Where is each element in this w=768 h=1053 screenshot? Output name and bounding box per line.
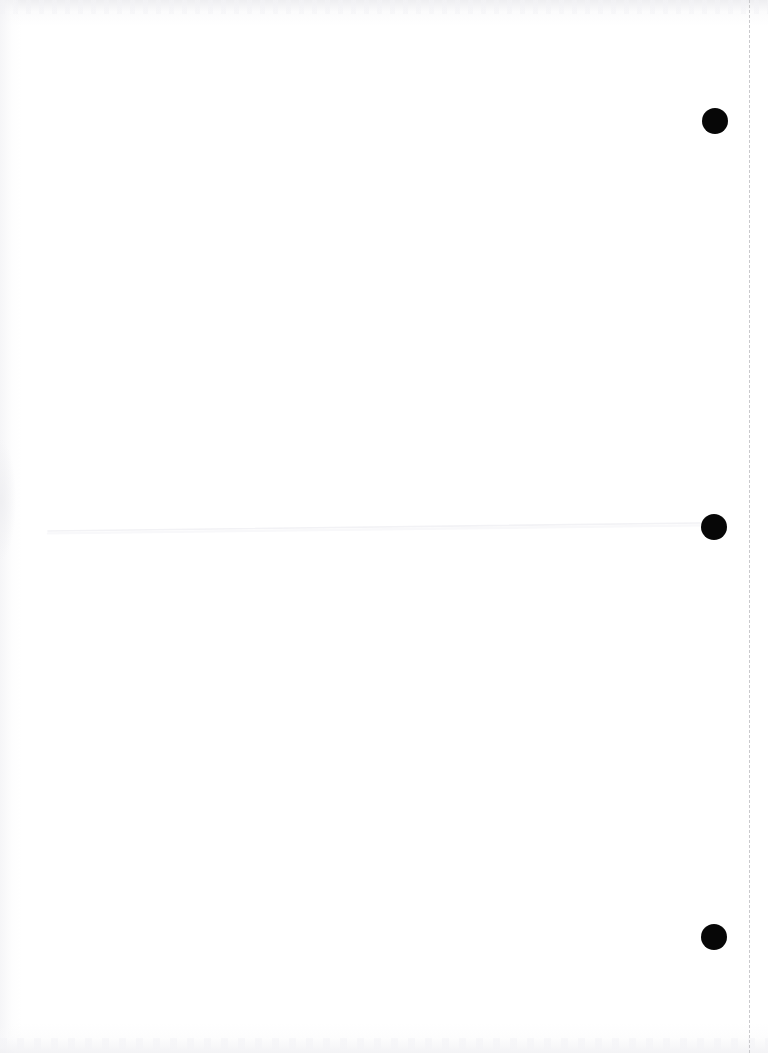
scanned-page [0, 0, 768, 1053]
dashed-margin-line [749, 0, 750, 1053]
registration-dot-middle [701, 514, 727, 540]
page-body-text [48, 60, 688, 960]
registration-dot-bottom [701, 924, 727, 950]
registration-dot-top [702, 108, 728, 134]
